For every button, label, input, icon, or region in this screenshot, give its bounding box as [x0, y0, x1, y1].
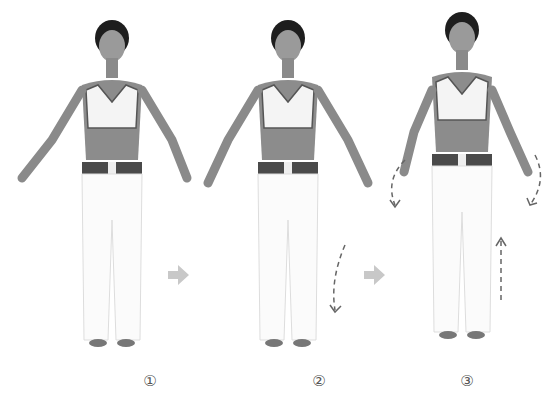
step-label-1: ①	[138, 372, 162, 390]
step-label-2: ②	[307, 372, 331, 390]
figure-step-1	[0, 0, 557, 360]
next-arrow-icon	[364, 265, 386, 285]
next-arrow-icon	[168, 265, 190, 285]
step-label-3: ③	[455, 372, 479, 390]
